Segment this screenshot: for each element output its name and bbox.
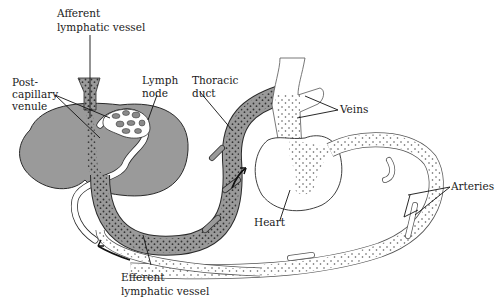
label-lymphnode-1: Lymph (142, 74, 178, 86)
lymphatic-circulation-diagram: Afferent lymphatic vessel Post- capillar… (0, 0, 498, 305)
label-thoracic-1: Thoracic (192, 74, 239, 86)
label-lymphnode-2: node (142, 87, 168, 99)
label-heart: Heart (254, 216, 286, 228)
label-postcap-2: capillary (12, 88, 58, 100)
label-efferent-2: lymphatic vessel (121, 285, 210, 297)
label-afferent-2: lymphatic vessel (57, 21, 146, 33)
label-arteries: Arteries (450, 180, 494, 192)
label-efferent-1: Efferent (121, 271, 165, 283)
label-postcap-3: venule (11, 100, 47, 112)
label-postcap-1: Post- (12, 76, 39, 88)
label-thoracic-2: duct (192, 87, 216, 99)
label-veins: Veins (339, 103, 368, 115)
label-afferent-1: Afferent (56, 7, 101, 19)
